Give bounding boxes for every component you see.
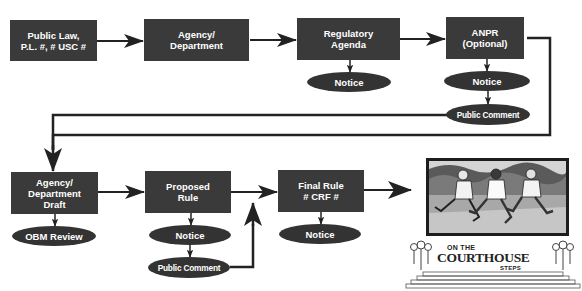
ellipse-label: Notice bbox=[305, 229, 334, 240]
ellipse-label: Notice bbox=[175, 230, 204, 241]
node-label: Proposed bbox=[166, 181, 210, 192]
node-label: Department bbox=[28, 188, 81, 199]
node-proposed-rule: ProposedRule bbox=[145, 171, 231, 213]
node-agency-department-draft: Agency/DepartmentDraft bbox=[11, 172, 98, 214]
node-label: # CRF # bbox=[298, 191, 343, 202]
node-label: Draft bbox=[28, 199, 81, 210]
ellipse-proposed-notice: Notice bbox=[149, 225, 231, 245]
ellipse-anpr-public-comment: Public Comment bbox=[446, 104, 530, 125]
node-label: Public Law, bbox=[21, 30, 86, 41]
node-label: (Optional) bbox=[463, 38, 508, 49]
node-label: ANPR bbox=[463, 27, 508, 38]
runners-image bbox=[426, 158, 569, 236]
node-label: Regulatory bbox=[324, 28, 374, 39]
ellipse-label: Public Comment bbox=[158, 263, 221, 273]
logo-line-courthouse: COURTHOUSE bbox=[437, 250, 530, 266]
runners-illustration bbox=[429, 161, 566, 233]
node-label: Final Rule bbox=[298, 180, 343, 191]
node-agency-department: Agency/Department bbox=[144, 19, 249, 61]
ellipse-label: Notice bbox=[334, 77, 363, 88]
connector-publiccomment-to-draft bbox=[53, 115, 447, 150]
node-final-rule: Final Rule# CRF # bbox=[278, 170, 364, 212]
ellipse-label: Notice bbox=[472, 76, 501, 87]
ellipse-label: OBM Review bbox=[25, 231, 83, 242]
node-label: P.L. #, # USC # bbox=[21, 41, 86, 52]
ellipse-proposed-public-comment: Public Comment bbox=[148, 257, 230, 278]
ellipse-regulatory-notice: Notice bbox=[307, 72, 391, 92]
node-label: Rule bbox=[166, 192, 210, 203]
steps-graphic bbox=[405, 271, 581, 291]
connector-publiccomment-to-final bbox=[230, 224, 253, 267]
ellipse-anpr-notice: Notice bbox=[444, 71, 530, 91]
ellipse-final-notice: Notice bbox=[279, 224, 361, 244]
ellipse-obm-review: OBM Review bbox=[12, 226, 96, 246]
node-label: Agenda bbox=[324, 39, 374, 50]
microphones-right-icon bbox=[551, 240, 575, 274]
microphones-left-icon bbox=[409, 240, 433, 274]
node-label: Agency/ bbox=[170, 29, 223, 40]
ellipse-label: Public Comment bbox=[457, 110, 520, 120]
courthouse-steps-logo: ON THE COURTHOUSE STEPS bbox=[405, 240, 581, 291]
node-public-law: Public Law,P.L. #, # USC # bbox=[10, 20, 97, 61]
node-anpr: ANPR(Optional) bbox=[446, 17, 524, 59]
node-label: Agency/ bbox=[28, 177, 81, 188]
node-regulatory-agenda: RegulatoryAgenda bbox=[297, 18, 400, 60]
node-label: Department bbox=[170, 40, 223, 51]
